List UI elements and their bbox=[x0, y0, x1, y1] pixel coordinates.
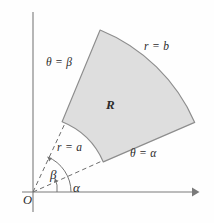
label-theta-equals-beta: θ = β bbox=[46, 57, 72, 69]
label-angle-beta: β bbox=[50, 168, 56, 181]
horizontal-axis-arrowhead bbox=[192, 188, 200, 197]
label-region-r: R bbox=[106, 98, 115, 111]
label-origin-o: O bbox=[23, 194, 32, 207]
label-angle-alpha: α bbox=[73, 181, 80, 194]
label-r-equals-b: r = b bbox=[144, 41, 169, 53]
polar-region-figure: θ = β r = b R r = a θ = α β α O bbox=[0, 0, 214, 223]
label-r-equals-a: r = a bbox=[57, 142, 82, 154]
label-theta-equals-alpha: θ = α bbox=[130, 148, 157, 160]
